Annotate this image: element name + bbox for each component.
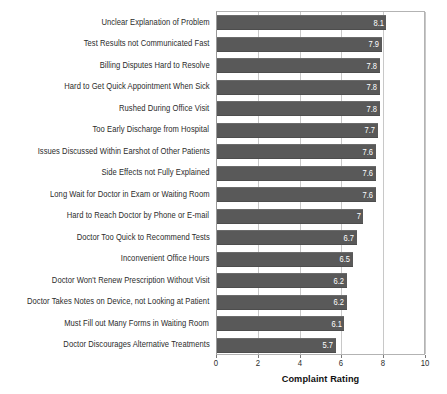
category-label-row: Rushed During Office Visit xyxy=(0,100,212,115)
bar-row: 6.2 xyxy=(217,295,424,310)
bar: 7.9 xyxy=(217,37,382,52)
bar-value-label: 6.2 xyxy=(333,297,346,307)
category-label: Must Fill out Many Forms in Waiting Room xyxy=(65,318,212,328)
category-label: Too Early Discharge from Hospital xyxy=(93,124,212,134)
bar-value-label: 7.8 xyxy=(367,104,380,114)
bar-value-label: 6.5 xyxy=(340,254,353,264)
bar-row: 7.8 xyxy=(217,58,424,73)
bar-row: 6.5 xyxy=(217,252,424,267)
bar-value-label: 7.6 xyxy=(363,168,376,178)
bar-row: 7.7 xyxy=(217,123,424,138)
category-label-row: Doctor Discourages Alternative Treatment… xyxy=(0,337,212,352)
category-label: Inconvenient Office Hours xyxy=(121,253,212,263)
category-label-row: Billing Disputes Hard to Resolve xyxy=(0,57,212,72)
bar: 7.8 xyxy=(217,80,380,95)
bar-row: 7.6 xyxy=(217,144,424,159)
bar-value-label: 7 xyxy=(356,211,363,221)
x-axis-tick-label: 6 xyxy=(339,358,343,368)
bar: 6.2 xyxy=(217,273,347,288)
bar-row: 7.8 xyxy=(217,101,424,116)
bar-value-label: 7.7 xyxy=(365,125,378,135)
bar-value-label: 6.1 xyxy=(331,319,344,329)
category-label: Rushed During Office Visit xyxy=(119,103,212,113)
horizontal-bar-chart: Unclear Explanation of ProblemTest Resul… xyxy=(0,0,447,394)
x-axis-tick-label: 8 xyxy=(381,358,385,368)
category-label: Hard to Get Quick Appointment When Sick xyxy=(64,81,212,91)
category-label: Side Effects not Fully Explained xyxy=(101,167,212,177)
bar-value-label: 7.8 xyxy=(367,82,380,92)
category-axis-labels: Unclear Explanation of ProblemTest Resul… xyxy=(0,11,212,355)
category-label: Doctor Discourages Alternative Treatment… xyxy=(63,339,212,349)
category-label-row: Inconvenient Office Hours xyxy=(0,251,212,266)
category-label-row: Issues Discussed Within Earshot of Other… xyxy=(0,143,212,158)
category-label: Doctor Won't Renew Prescription Without … xyxy=(51,275,212,285)
bar-value-label: 8.1 xyxy=(373,18,386,28)
category-label-row: Hard to Reach Doctor by Phone or E-mail xyxy=(0,208,212,223)
category-label-row: Side Effects not Fully Explained xyxy=(0,165,212,180)
x-axis-title: Complaint Rating xyxy=(216,374,425,384)
gridline xyxy=(425,12,426,354)
bar: 5.7 xyxy=(217,338,336,353)
bar-row: 6.7 xyxy=(217,230,424,245)
bar-row: 5.7 xyxy=(217,338,424,353)
bar: 7.6 xyxy=(217,144,376,159)
bar-value-label: 6.7 xyxy=(344,233,357,243)
x-axis: 0246810 xyxy=(216,355,425,373)
category-label: Hard to Reach Doctor by Phone or E-mail xyxy=(67,210,212,220)
category-label-row: Too Early Discharge from Hospital xyxy=(0,122,212,137)
category-label-row: Test Results not Communicated Fast xyxy=(0,36,212,51)
bar-value-label: 7.8 xyxy=(367,61,380,71)
bar-value-label: 5.7 xyxy=(323,340,336,350)
bar: 7.6 xyxy=(217,166,376,181)
category-label-row: Hard to Get Quick Appointment When Sick xyxy=(0,79,212,94)
bar-row: 7.8 xyxy=(217,80,424,95)
bar-row: 6.1 xyxy=(217,316,424,331)
bar: 8.1 xyxy=(217,15,386,30)
x-axis-tick-label: 0 xyxy=(214,358,218,368)
category-label-row: Must Fill out Many Forms in Waiting Room xyxy=(0,315,212,330)
bar: 6.5 xyxy=(217,252,353,267)
bar: 7.8 xyxy=(217,101,380,116)
category-label: Doctor Too Quick to Recommend Tests xyxy=(76,232,212,242)
bar-row: 7 xyxy=(217,209,424,224)
bar-row: 6.2 xyxy=(217,273,424,288)
category-label-row: Unclear Explanation of Problem xyxy=(0,14,212,29)
bar: 6.2 xyxy=(217,295,347,310)
bar-value-label: 7.6 xyxy=(363,190,376,200)
category-label-row: Doctor Takes Notes on Device, not Lookin… xyxy=(0,294,212,309)
bar-row: 7.6 xyxy=(217,166,424,181)
category-label: Billing Disputes Hard to Resolve xyxy=(99,60,212,70)
bar: 7.6 xyxy=(217,187,376,202)
bar-value-label: 7.9 xyxy=(369,39,382,49)
category-label-row: Long Wait for Doctor in Exam or Waiting … xyxy=(0,186,212,201)
x-axis-tick-label: 10 xyxy=(421,358,430,368)
category-label-row: Doctor Too Quick to Recommend Tests xyxy=(0,229,212,244)
category-label-row: Doctor Won't Renew Prescription Without … xyxy=(0,272,212,287)
bar: 6.1 xyxy=(217,316,344,331)
bar: 7.7 xyxy=(217,123,378,138)
category-label: Unclear Explanation of Problem xyxy=(101,17,212,27)
bar: 7 xyxy=(217,209,363,224)
category-label: Long Wait for Doctor in Exam or Waiting … xyxy=(50,189,212,199)
bar-value-label: 7.6 xyxy=(363,147,376,157)
bar-row: 8.1 xyxy=(217,15,424,30)
bar: 6.7 xyxy=(217,230,357,245)
category-label: Issues Discussed Within Earshot of Other… xyxy=(37,146,212,156)
category-label: Doctor Takes Notes on Device, not Lookin… xyxy=(27,296,212,306)
category-label: Test Results not Communicated Fast xyxy=(84,38,212,48)
plot-area: 8.17.97.87.87.87.77.67.67.676.76.56.26.2… xyxy=(216,11,425,355)
x-axis-tick-label: 4 xyxy=(297,358,301,368)
bar: 7.8 xyxy=(217,58,380,73)
bar-series: 8.17.97.87.87.87.77.67.67.676.76.56.26.2… xyxy=(217,12,424,354)
x-axis-tick-label: 2 xyxy=(256,358,260,368)
bar-row: 7.9 xyxy=(217,37,424,52)
bar-value-label: 6.2 xyxy=(333,276,346,286)
bar-row: 7.6 xyxy=(217,187,424,202)
